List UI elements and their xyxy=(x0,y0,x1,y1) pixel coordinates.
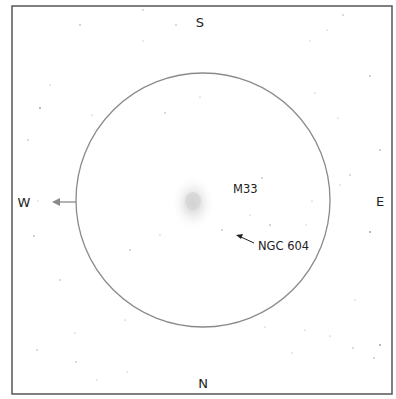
m33-galaxy xyxy=(171,175,215,231)
label-m33: M33 xyxy=(233,182,258,196)
compass-south: S xyxy=(196,15,204,30)
compass-east: E xyxy=(376,194,384,209)
compass-north: N xyxy=(198,376,208,391)
finder-chart: S N W E M33 NGC 604 xyxy=(0,0,396,399)
compass-west: W xyxy=(18,195,31,210)
label-ngc604: NGC 604 xyxy=(258,239,309,253)
